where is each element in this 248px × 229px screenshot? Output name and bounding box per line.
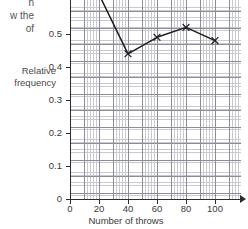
y-tick-label-0.2: 0.2 xyxy=(28,127,62,138)
data-point-marker xyxy=(154,34,161,41)
y-tick-label-0.5: 0.5 xyxy=(28,28,62,39)
data-point-marker xyxy=(125,50,132,57)
chart-page: n w the of Relative frequency 0.5 0.4 0.… xyxy=(0,0,248,229)
data-series-layer xyxy=(70,0,241,199)
data-point-marker xyxy=(183,24,190,31)
question-stem-line-1: n xyxy=(0,0,34,9)
x-tick-label-100: 100 xyxy=(200,203,230,214)
x-tick-label-60: 60 xyxy=(142,203,172,214)
relative-frequency-line xyxy=(70,0,241,199)
y-tick-label-0.3: 0.3 xyxy=(28,94,62,105)
plot-area: 0.5 0.4 0.3 0.2 0.1 0 0 20 40 60 80 100 xyxy=(70,0,241,199)
data-point-marker xyxy=(212,37,219,44)
question-stem-line-2: w the xyxy=(0,9,34,22)
y-tick-label-0.1: 0.1 xyxy=(28,160,62,171)
y-tick-label-0.4: 0.4 xyxy=(28,61,62,72)
x-tick-label-20: 20 xyxy=(84,203,114,214)
x-axis-title: Number of throws xyxy=(46,215,206,226)
x-tick-label-0: 0 xyxy=(55,203,85,214)
x-tick-label-40: 40 xyxy=(113,203,143,214)
y-axis-title-line-2: frequency xyxy=(0,77,56,89)
x-tick-label-80: 80 xyxy=(171,203,201,214)
series-line xyxy=(99,0,215,54)
